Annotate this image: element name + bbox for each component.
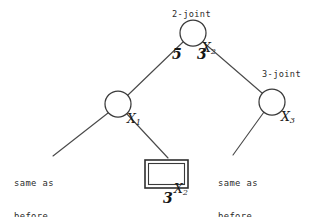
edge-weight-left: 5 — [172, 46, 182, 62]
node-x3-var: X — [281, 109, 290, 124]
node-x1-subscript: 1 — [136, 117, 141, 127]
node-boxed-x2-var: X — [174, 181, 183, 196]
edge-x1-to-leaf-left — [53, 113, 108, 156]
leaf-left-text: same as before — [14, 157, 54, 217]
leaf-right-line2: before — [218, 211, 258, 217]
node-root-x2-subscript: 2 — [211, 46, 216, 56]
leaf-left-line1: same as — [14, 178, 54, 189]
leaf-left-line2: before — [14, 211, 54, 217]
node-boxed-x2-subscript: 2 — [183, 187, 188, 197]
edge-x3-to-leaf-right — [233, 112, 264, 155]
edge-group — [53, 42, 264, 158]
leaf-right-line1: same as — [218, 178, 258, 189]
boxed-x2-weight: 3 — [163, 190, 173, 206]
node-x1-label: X1 — [111, 96, 141, 142]
edge-weight-right: 3 — [197, 46, 207, 62]
annotation-2-joint: 2-joint — [172, 9, 211, 19]
annotation-3-joint: 3-joint — [262, 69, 301, 79]
node-x3-subscript: 3 — [290, 115, 295, 125]
leaf-right-text: same as before — [218, 157, 258, 217]
node-x1-var: X — [127, 111, 136, 126]
decision-tree-diagram: 2-joint 3-joint X2 X1 X3 X2 5 3 3 same a… — [0, 0, 327, 217]
node-x3-label: X3 — [265, 94, 295, 140]
